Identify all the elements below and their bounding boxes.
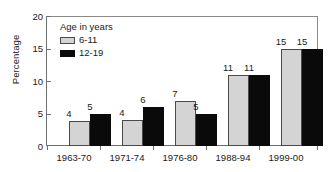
bar-1999-00-6-11 bbox=[281, 49, 302, 146]
x-axis-label-1999-00: 1999-00 bbox=[254, 152, 318, 163]
legend-item-6-11: 6-11 bbox=[60, 34, 152, 46]
light-gray-swatch-icon bbox=[60, 37, 75, 44]
bar-value-1976-80-6-11: 7 bbox=[160, 89, 190, 99]
bar-value-1988-94-12-19: 11 bbox=[234, 63, 264, 73]
bar-1976-80-12-19 bbox=[196, 114, 217, 146]
x-tick-0 bbox=[47, 146, 48, 150]
bar-value-1971-74-12-19: 6 bbox=[128, 95, 158, 105]
legend-item-12-19: 12-19 bbox=[60, 47, 152, 59]
bar-1988-94-6-11 bbox=[228, 75, 249, 146]
bar-1963-70-6-11 bbox=[69, 121, 90, 146]
bar-1963-70-12-19 bbox=[90, 114, 111, 146]
bar-value-1976-80-12-19: 5 bbox=[181, 102, 211, 112]
y-tick-label-15: 15 bbox=[3, 44, 43, 54]
black-swatch-icon bbox=[60, 50, 75, 57]
x-tick-5 bbox=[317, 146, 318, 150]
x-tick-1 bbox=[100, 146, 101, 150]
legend-title: Age in years bbox=[60, 21, 152, 33]
legend-label-12-19: 12-19 bbox=[79, 48, 103, 58]
x-tick-2 bbox=[153, 146, 154, 150]
bar-1971-74-12-19 bbox=[143, 107, 164, 146]
bar-chart: Percentage 20 15 10 5 0 4 5 4 6 7 5 11 1… bbox=[0, 0, 334, 172]
bar-1988-94-12-19 bbox=[249, 75, 270, 146]
legend-label-6-11: 6-11 bbox=[79, 35, 97, 45]
legend: Age in years 6-11 12-19 bbox=[60, 21, 152, 59]
bar-value-1963-70-12-19: 5 bbox=[75, 102, 105, 112]
bar-value-1999-00-12-19: 15 bbox=[287, 37, 317, 47]
x-tick-3 bbox=[206, 146, 207, 150]
y-tick-label-5: 5 bbox=[3, 109, 43, 119]
y-tick-label-20: 20 bbox=[3, 12, 43, 22]
bar-value-1971-74-6-11: 4 bbox=[107, 108, 137, 118]
bar-1999-00-12-19 bbox=[302, 49, 323, 146]
bar-1971-74-6-11 bbox=[122, 120, 143, 146]
x-tick-4 bbox=[259, 146, 260, 150]
y-tick-label-10: 10 bbox=[3, 77, 43, 87]
y-tick-label-0: 0 bbox=[3, 142, 43, 152]
